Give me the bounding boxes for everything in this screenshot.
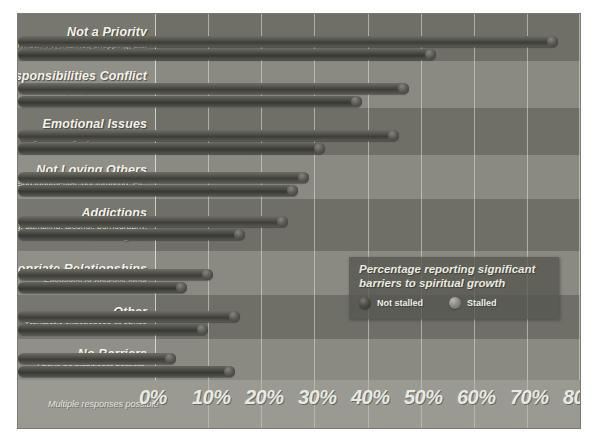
bar-other-not-stalled: [18, 311, 240, 322]
gridline-60: [474, 14, 475, 380]
category-title: Responsibilities Conflict: [18, 70, 147, 83]
bar-no-barriers-not-stalled: [18, 353, 176, 364]
bar-not-a-priority-stalled: [18, 49, 436, 60]
sphere-light-icon: [449, 297, 461, 309]
bar-emotional-issues-stalled: [18, 143, 325, 154]
bar-emotional-issues-not-stalled: [18, 130, 399, 141]
legend-item-label: Not stalled: [377, 298, 423, 308]
x-axis-tick-30: 30%: [298, 386, 337, 409]
bar-not-loving-others-not-stalled: [18, 172, 309, 183]
chart-plate: Not a Priority Too much TV, Internet, sh…: [18, 14, 580, 428]
gridline-50: [421, 14, 422, 380]
bar-end-cap-icon: [314, 143, 325, 154]
bar-addictions-stalled: [18, 229, 245, 240]
gridline-80: [579, 14, 580, 380]
x-axis-tick-0: 0%: [139, 386, 167, 409]
bar-end-cap-icon: [277, 216, 288, 227]
bar-not-loving-others-stalled: [18, 185, 298, 196]
x-axis-tick-20: 20%: [245, 386, 284, 409]
chart-legend: Percentage reporting significant barrier…: [349, 257, 559, 319]
bar-end-cap-icon: [425, 49, 436, 60]
x-axis-tick-70: 70%: [510, 386, 549, 409]
legend-item-label: Stalled: [467, 298, 497, 308]
legend-item-stalled: Stalled: [449, 297, 497, 309]
bar-end-cap-icon: [547, 36, 558, 47]
legend-item-not-stalled: Not stalled: [359, 297, 423, 309]
sphere-dark-icon: [359, 297, 371, 309]
x-axis-tick-40: 40%: [351, 386, 390, 409]
bar-end-cap-icon: [197, 324, 208, 335]
gridline-20: [261, 14, 262, 380]
bar-end-cap-icon: [298, 172, 309, 183]
gridline-40: [368, 14, 369, 380]
bar-end-cap-icon: [388, 130, 399, 141]
chart-screenshot: Not a Priority Too much TV, Internet, sh…: [0, 0, 596, 441]
bar-end-cap-icon: [351, 96, 362, 107]
legend-title-line2: barriers to spiritual growth: [359, 277, 505, 289]
bar-end-cap-icon: [229, 311, 240, 322]
bar-responsibilities-conflict-stalled: [18, 96, 362, 107]
bar-responsibilities-conflict-not-stalled: [18, 83, 409, 94]
bar-end-cap-icon: [176, 282, 187, 293]
legend-title: Percentage reporting significant barrier…: [359, 262, 555, 290]
bar-not-a-priority-not-stalled: [18, 36, 558, 47]
bar-other-stalled: [18, 324, 208, 335]
bar-addictions-not-stalled: [18, 216, 288, 227]
bar-no-barriers-stalled: [18, 366, 235, 377]
bar-inappropriate-relationships-stalled: [18, 282, 187, 293]
x-axis-tick-10: 10%: [192, 386, 231, 409]
bar-end-cap-icon: [224, 366, 235, 377]
bar-inappropriate-relationships-not-stalled: [18, 269, 213, 280]
x-axis-tick-50: 50%: [404, 386, 443, 409]
gridline-30: [314, 14, 315, 380]
gridline-10: [208, 14, 209, 380]
x-axis-tick-80: 80%: [563, 386, 580, 409]
x-axis-tick-60: 60%: [457, 386, 496, 409]
legend-title-line1: Percentage reporting significant: [359, 263, 535, 275]
gridline-70: [527, 14, 528, 380]
